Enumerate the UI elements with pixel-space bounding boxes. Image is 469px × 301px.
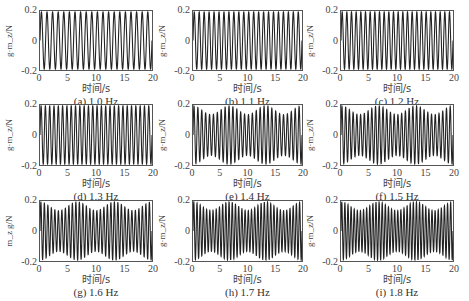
x-tick-label: 0 — [29, 264, 49, 274]
signal-line — [193, 201, 302, 261]
plot-area — [39, 104, 153, 166]
x-tick-label: 0 — [29, 73, 49, 83]
x-axis-label: 时间/s — [192, 179, 303, 189]
x-tick-label: 15 — [416, 168, 436, 178]
x-tick-label: 5 — [58, 168, 78, 178]
x-tick-label: 15 — [115, 73, 135, 83]
x-tick-label: 15 — [416, 264, 436, 274]
x-axis-label: 时间/s — [192, 275, 303, 285]
plot-area — [340, 200, 454, 262]
x-tick-label: 10 — [387, 73, 407, 83]
y-axis-label: g·m_z/N — [4, 110, 14, 160]
y-tick-label: 0 — [168, 226, 190, 236]
x-tick-label: 10 — [238, 168, 258, 178]
x-tick-label: 5 — [58, 264, 78, 274]
panel-caption: (h) 1.7 Hz — [192, 286, 303, 298]
panel-caption: (g) 1.6 Hz — [39, 286, 153, 298]
y-tick-label: 0.2 — [168, 99, 190, 109]
x-axis-label: 时间/s — [340, 275, 454, 285]
plot-area — [340, 10, 454, 71]
x-tick-label: 5 — [359, 168, 379, 178]
x-tick-label: 0 — [182, 73, 202, 83]
plot-area — [192, 200, 303, 262]
y-tick-label: 0.2 — [15, 195, 37, 205]
plot-area — [192, 10, 303, 71]
x-tick-label: 5 — [359, 264, 379, 274]
plot-area — [192, 104, 303, 166]
x-tick-label: 10 — [387, 264, 407, 274]
y-axis-label: g·m_z/N — [305, 110, 315, 160]
y-axis-label: g·m_z/N — [157, 206, 167, 256]
x-tick-label: 10 — [238, 264, 258, 274]
y-axis-label: g·m_z/N — [305, 206, 315, 256]
x-axis-label: 时间/s — [340, 179, 454, 189]
y-tick-label: 0.2 — [316, 5, 338, 15]
y-tick-label: 0.2 — [168, 195, 190, 205]
x-tick-label: 5 — [210, 264, 230, 274]
x-axis-label: 时间/s — [39, 179, 153, 189]
y-axis-label: m_z g/N — [4, 206, 14, 256]
x-tick-label: 20 — [293, 168, 313, 178]
x-tick-label: 20 — [143, 73, 163, 83]
x-tick-label: 10 — [86, 168, 106, 178]
y-tick-label: 0 — [15, 130, 37, 140]
x-tick-label: 20 — [293, 264, 313, 274]
y-tick-label: 0 — [316, 226, 338, 236]
x-tick-label: 0 — [182, 264, 202, 274]
y-tick-label: 0 — [15, 226, 37, 236]
y-tick-label: 0.2 — [316, 99, 338, 109]
x-tick-label: 15 — [265, 73, 285, 83]
x-axis-label: 时间/s — [340, 84, 454, 94]
x-tick-label: 15 — [265, 168, 285, 178]
x-tick-label: 5 — [359, 73, 379, 83]
y-tick-label: 0 — [168, 130, 190, 140]
y-tick-label: 0 — [316, 36, 338, 46]
signal-line — [341, 11, 453, 70]
y-tick-label: 0.2 — [15, 99, 37, 109]
signal-line — [193, 105, 302, 165]
plot-area — [39, 200, 153, 262]
signal-line — [341, 105, 453, 165]
x-axis-label: 时间/s — [39, 84, 153, 94]
x-tick-label: 20 — [444, 168, 464, 178]
panel-caption: (i) 1.8 Hz — [340, 286, 454, 298]
signal-line — [40, 11, 152, 70]
x-tick-label: 0 — [330, 168, 350, 178]
x-axis-label: 时间/s — [192, 84, 303, 94]
y-axis-label: g·m_z/N — [157, 110, 167, 160]
y-tick-label: 0.2 — [316, 195, 338, 205]
signal-line — [341, 201, 453, 261]
x-tick-label: 15 — [416, 73, 436, 83]
signal-line — [40, 201, 152, 261]
x-tick-label: 20 — [143, 168, 163, 178]
x-tick-label: 20 — [444, 264, 464, 274]
x-axis-label: 时间/s — [39, 275, 153, 285]
y-tick-label: 0.2 — [168, 5, 190, 15]
x-tick-label: 5 — [210, 73, 230, 83]
plot-area — [340, 104, 454, 166]
x-tick-label: 0 — [330, 264, 350, 274]
x-tick-label: 20 — [143, 264, 163, 274]
y-tick-label: 0.2 — [15, 5, 37, 15]
y-tick-label: 0 — [316, 130, 338, 140]
y-tick-label: 0 — [168, 36, 190, 46]
signal-line — [193, 11, 302, 70]
x-tick-label: 0 — [330, 73, 350, 83]
x-tick-label: 20 — [293, 73, 313, 83]
x-tick-label: 10 — [238, 73, 258, 83]
x-tick-label: 5 — [210, 168, 230, 178]
x-tick-label: 15 — [115, 168, 135, 178]
x-tick-label: 10 — [387, 168, 407, 178]
y-axis-label: g·m_z/N — [4, 16, 14, 66]
plot-area — [39, 10, 153, 71]
y-tick-label: 0 — [15, 36, 37, 46]
signal-line — [40, 105, 152, 165]
y-axis-label: g·m_z/N — [305, 16, 315, 66]
x-tick-label: 10 — [86, 264, 106, 274]
x-tick-label: 0 — [29, 168, 49, 178]
x-tick-label: 15 — [115, 264, 135, 274]
y-axis-label: g·m_z/N — [157, 16, 167, 66]
x-tick-label: 20 — [444, 73, 464, 83]
x-tick-label: 15 — [265, 264, 285, 274]
x-tick-label: 10 — [86, 73, 106, 83]
